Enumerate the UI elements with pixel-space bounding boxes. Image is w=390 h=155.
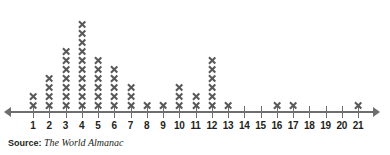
x-marker-icon: [45, 92, 54, 101]
x-marker-icon: [77, 47, 86, 56]
x-marker-icon: [94, 83, 103, 92]
x-marker-icon: [45, 83, 54, 92]
x-marker-icon: [77, 83, 86, 92]
dot-stack: [41, 74, 57, 110]
x-marker-icon: [126, 101, 135, 110]
x-marker-icon: [61, 65, 70, 74]
x-marker-icon: [207, 92, 216, 101]
dot-stack: [220, 101, 236, 110]
dot-stack: [74, 20, 90, 110]
axis-tick: [309, 106, 310, 118]
x-marker-icon: [207, 56, 216, 65]
dot-stack: [106, 65, 122, 110]
dot-stack: [90, 56, 106, 110]
x-marker-icon: [77, 65, 86, 74]
dot-plot-figure: 123456789101112131415161718192021 Source…: [0, 0, 390, 155]
x-marker-icon: [289, 101, 298, 110]
axis-arrow-left-icon: [4, 107, 11, 117]
x-marker-icon: [61, 47, 70, 56]
x-marker-icon: [45, 74, 54, 83]
source-text: The World Almanac: [44, 137, 123, 148]
x-marker-icon: [45, 101, 54, 110]
source-note: Source: The World Almanac: [8, 137, 123, 148]
x-marker-icon: [77, 20, 86, 29]
axis-tick: [261, 106, 262, 118]
x-marker-icon: [29, 92, 38, 101]
x-marker-icon: [94, 56, 103, 65]
x-marker-icon: [77, 38, 86, 47]
x-marker-icon: [61, 56, 70, 65]
axis-arrow-right-icon: [373, 107, 380, 117]
x-marker-icon: [207, 74, 216, 83]
dot-stack: [58, 47, 74, 110]
x-marker-icon: [126, 83, 135, 92]
dot-stack: [204, 56, 220, 110]
axis-tick: [244, 106, 245, 118]
dot-stack: [350, 101, 366, 110]
source-label: Source:: [8, 138, 42, 148]
axis-tick: [342, 106, 343, 118]
x-marker-icon: [207, 101, 216, 110]
x-marker-icon: [77, 92, 86, 101]
dot-stack: [139, 101, 155, 110]
x-marker-icon: [110, 74, 119, 83]
axis-tick: [326, 106, 327, 118]
x-marker-icon: [272, 101, 281, 110]
x-marker-icon: [191, 92, 200, 101]
x-marker-icon: [110, 65, 119, 74]
x-marker-icon: [175, 83, 184, 92]
x-marker-icon: [110, 101, 119, 110]
x-marker-icon: [126, 92, 135, 101]
x-marker-icon: [77, 74, 86, 83]
dot-stack: [171, 83, 187, 110]
x-marker-icon: [77, 29, 86, 38]
x-marker-icon: [61, 101, 70, 110]
x-marker-icon: [175, 92, 184, 101]
dot-stack: [155, 101, 171, 110]
x-marker-icon: [94, 65, 103, 74]
x-marker-icon: [61, 92, 70, 101]
x-marker-icon: [354, 101, 363, 110]
dot-stack: [269, 101, 285, 110]
x-marker-icon: [61, 74, 70, 83]
dot-stack: [123, 83, 139, 110]
x-marker-icon: [159, 101, 168, 110]
x-marker-icon: [191, 101, 200, 110]
x-marker-icon: [207, 83, 216, 92]
x-marker-icon: [77, 56, 86, 65]
x-marker-icon: [175, 101, 184, 110]
x-marker-icon: [110, 92, 119, 101]
dot-stack: [285, 101, 301, 110]
dot-stack: [25, 92, 41, 110]
x-marker-icon: [110, 83, 119, 92]
x-marker-icon: [224, 101, 233, 110]
x-marker-icon: [77, 101, 86, 110]
x-marker-icon: [29, 101, 38, 110]
x-marker-icon: [61, 83, 70, 92]
dot-stack: [188, 92, 204, 110]
x-marker-icon: [94, 101, 103, 110]
axis-tick-label: 21: [347, 120, 369, 132]
x-marker-icon: [207, 65, 216, 74]
x-marker-icon: [94, 92, 103, 101]
x-marker-icon: [142, 101, 151, 110]
x-marker-icon: [94, 74, 103, 83]
